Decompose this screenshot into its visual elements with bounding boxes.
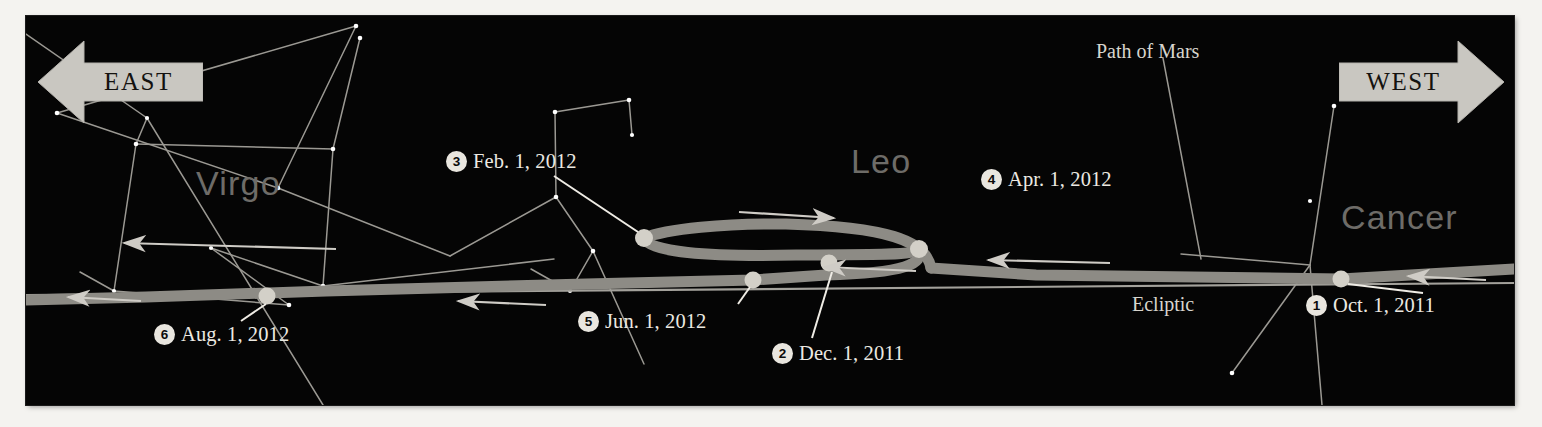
motion-arrow-left — [458, 301, 546, 305]
leader-3 — [554, 176, 638, 232]
constellation-leo-right-lines — [450, 100, 644, 364]
west-arrow-label: WEST — [1366, 68, 1440, 96]
marker-dot-1 — [1333, 271, 1350, 288]
leader-2 — [812, 272, 832, 338]
star-chart-panel: Virgo Leo Cancer Path of Mars Ecliptic 1… — [26, 16, 1514, 405]
leader-1 — [1348, 284, 1423, 293]
constellation-lines — [26, 26, 1334, 405]
motion-arrow-right — [988, 260, 1110, 263]
segment-dec-to-feb-upper — [644, 224, 931, 268]
diagram-page: Virgo Leo Cancer Path of Mars Ecliptic 1… — [0, 0, 1542, 427]
sky-vector-layer — [26, 16, 1514, 405]
east-direction-arrow: EAST — [38, 38, 203, 126]
constellation-cancer-lines — [1181, 106, 1334, 405]
path-of-mars-leader — [1163, 58, 1201, 259]
marker-dot-2 — [821, 255, 838, 272]
marker-dot-6 — [259, 288, 276, 305]
marker-dot-4 — [910, 240, 928, 258]
marker-dot-5 — [745, 272, 762, 289]
stars — [55, 24, 1337, 376]
motion-arrow-loop-lower — [124, 243, 336, 249]
west-direction-arrow: WEST — [1339, 38, 1504, 126]
segment-feb-to-apr — [644, 238, 919, 255]
leader-6 — [241, 304, 266, 321]
east-arrow-label: EAST — [104, 68, 173, 96]
motion-arrow-loop-upper — [739, 212, 834, 218]
